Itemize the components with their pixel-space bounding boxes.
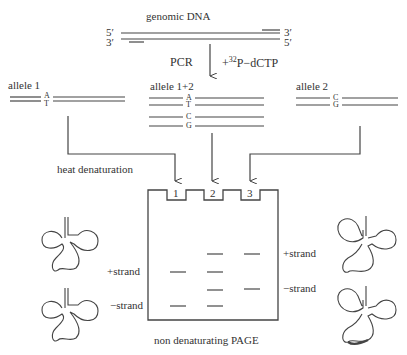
allele12-base-t: T — [186, 100, 191, 109]
pcr-reagent: +32P−dCTP — [222, 55, 278, 71]
lane-3-label: 3 — [247, 187, 253, 199]
gel-outline — [148, 190, 278, 320]
reagent-name: P−dCTP — [237, 56, 278, 70]
bottom-strand-5prime: 5′ — [284, 36, 292, 48]
lane-2-label: 2 — [210, 187, 216, 199]
allele1-base-bottom: T — [44, 99, 49, 108]
allele12-base-g: G — [186, 121, 192, 130]
sscp-diagram — [0, 0, 407, 355]
right-plus-strand-label: +strand — [283, 247, 316, 259]
ssdna-conformation-right — [338, 216, 396, 344]
pcr-label: PCR — [170, 55, 193, 70]
reagent-plus: + — [222, 56, 229, 70]
allele1-duplex — [10, 97, 125, 101]
allele12-base-c: C — [186, 112, 191, 121]
gel-bands — [170, 254, 260, 306]
allele2-label: allele 2 — [296, 80, 328, 92]
right-minus-strand-label: −strand — [283, 282, 316, 294]
bottom-strand-3prime: 3′ — [106, 36, 114, 48]
allele2-duplex — [296, 98, 398, 105]
left-minus-strand-label: −strand — [110, 299, 143, 311]
lane-1-label: 1 — [173, 187, 179, 199]
allele12-label: allele 1+2 — [150, 80, 194, 92]
allele12-strands — [149, 98, 264, 126]
gel-title: non denaturating PAGE — [154, 334, 259, 346]
left-plus-strand-label: +strand — [107, 265, 140, 277]
heat-denaturation-label: heat denaturation — [57, 163, 133, 175]
genomic-dna-duplex — [121, 30, 280, 42]
isotope-mass: 32 — [229, 55, 237, 64]
allele2-base-bottom: G — [333, 100, 339, 109]
genomic-dna-title: genomic DNA — [146, 10, 210, 22]
allele1-label: allele 1 — [8, 79, 40, 91]
ssdna-conformation-left — [42, 217, 98, 341]
